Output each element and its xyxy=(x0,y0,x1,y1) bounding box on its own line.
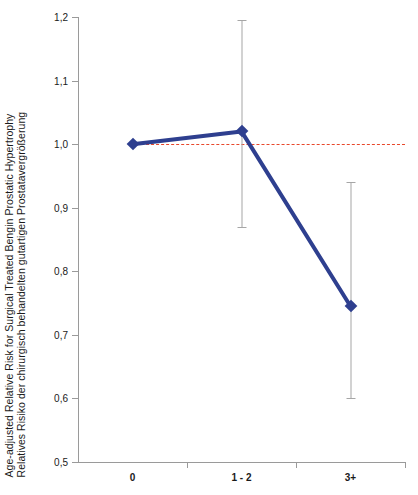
y-axis-tick xyxy=(72,462,78,463)
error-bar-cap-upper xyxy=(237,20,246,21)
y-axis-line xyxy=(78,17,79,463)
y-axis-tick-label: 0,9 xyxy=(38,202,68,213)
y-axis-tick-label: 0,5 xyxy=(38,457,68,468)
y-axis-tick xyxy=(72,81,78,82)
chart-container: Age-adjusted Relative Risk for Surgical … xyxy=(0,0,418,495)
y-axis-title-line-english: Age-adjusted Relative Risk for Surgical … xyxy=(4,113,15,477)
data-point-marker xyxy=(126,138,139,151)
x-axis-tick-label: 3+ xyxy=(311,472,391,483)
x-axis-tick xyxy=(405,462,406,468)
data-point-marker xyxy=(344,300,357,313)
y-axis-tick-label: 1,0 xyxy=(38,139,68,150)
y-axis-tick-label: 1,2 xyxy=(38,12,68,23)
y-axis-tick xyxy=(72,398,78,399)
error-bar-cap-lower xyxy=(346,398,355,399)
x-axis-tick xyxy=(187,462,188,468)
data-point-marker xyxy=(235,125,248,138)
y-axis-tick xyxy=(72,144,78,145)
y-axis-tick xyxy=(72,17,78,18)
y-axis-title-line-german: Relatives Risiko der chirurgisch behande… xyxy=(16,111,27,477)
y-axis-tick-label: 1,1 xyxy=(38,75,68,86)
x-axis-tick-label: 0 xyxy=(93,472,173,483)
error-bar-cap-lower xyxy=(237,227,246,228)
y-axis-tick xyxy=(72,335,78,336)
error-bar-stem xyxy=(350,182,351,398)
x-axis-line xyxy=(78,462,406,463)
y-axis-tick-label: 0,6 xyxy=(38,393,68,404)
y-axis-tick xyxy=(72,208,78,209)
y-axis-tick-label: 0,8 xyxy=(38,266,68,277)
reference-line xyxy=(131,144,406,145)
x-axis-tick-label: 1 - 2 xyxy=(202,472,282,483)
error-bar-cap-upper xyxy=(346,182,355,183)
y-axis-tick xyxy=(72,271,78,272)
y-axis-tick-label: 0,7 xyxy=(38,329,68,340)
x-axis-tick xyxy=(296,462,297,468)
y-axis-title: Age-adjusted Relative Risk for Surgical … xyxy=(0,0,38,495)
